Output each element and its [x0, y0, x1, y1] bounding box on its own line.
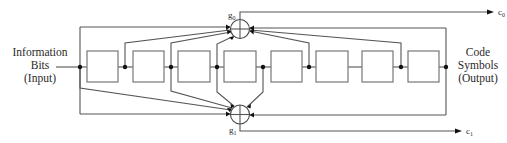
g1-arrow-right [250, 113, 255, 118]
register-stage-5 [271, 51, 302, 82]
input-label-line2: Bits [31, 59, 50, 71]
c1-label: c1 [466, 126, 473, 137]
input-label-line3: (Input) [24, 72, 56, 85]
register-stage-3 [178, 51, 210, 82]
register-stage-4 [224, 51, 256, 82]
g0-arrow-left [226, 25, 231, 31]
register-stage-6 [316, 51, 348, 82]
convolutional-encoder-diagram: Information Bits (Input) Code Symbols (O… [0, 0, 507, 143]
g1-label: g1 [229, 125, 237, 136]
output-label: Code Symbols (Output) [458, 46, 499, 85]
c1-output-line [240, 124, 457, 131]
input-label-line1: Information [13, 46, 68, 58]
register-stage-7 [362, 51, 393, 82]
output-label-line1: Code [466, 46, 490, 58]
register-stage-1 [87, 51, 118, 82]
c0-output-line [240, 12, 489, 20]
input-label: Information Bits (Input) [13, 46, 68, 85]
output-label-line3: (Output) [458, 72, 498, 85]
g1-arrow-left [226, 112, 231, 117]
register-stage-8 [408, 51, 439, 82]
g0-label: g0 [228, 10, 236, 21]
g0-tap-lines [125, 30, 401, 67]
c1-arrow-icon [455, 129, 462, 134]
diagram-svg: Information Bits (Input) Code Symbols (O… [0, 0, 507, 143]
c0-label: c0 [498, 7, 505, 18]
c0-arrow-icon [487, 10, 494, 15]
register-stage-2 [133, 51, 164, 82]
output-label-line2: Symbols [458, 59, 499, 72]
g1-adder: g1 c1 [226, 104, 473, 137]
